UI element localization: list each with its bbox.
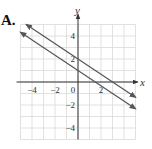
coordinate-plane: xy−4−20242−2−4 xyxy=(0,0,152,149)
x-tick-label: −2 xyxy=(50,85,60,95)
graph-line xyxy=(26,25,135,98)
y-axis-label: y xyxy=(74,4,80,16)
y-tick-label: −4 xyxy=(65,123,75,133)
x-tick-label: −4 xyxy=(27,85,37,95)
x-tick-label: 0 xyxy=(71,85,76,95)
x-axis-label: x xyxy=(139,76,145,88)
y-tick-label: −2 xyxy=(65,100,75,110)
y-tick-label: 4 xyxy=(71,31,76,41)
